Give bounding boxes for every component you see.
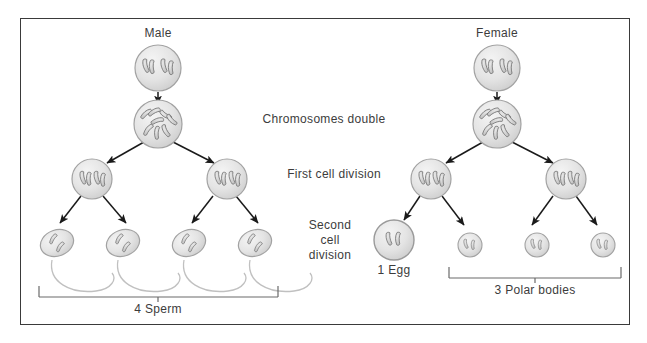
label-male: Male: [144, 27, 171, 41]
label-chromosomes-double: Chromosomes double: [263, 113, 386, 127]
label-second-cell-division-line1: Second: [309, 219, 352, 233]
label-four-sperm: 4 Sperm: [134, 303, 181, 317]
label-second-cell-division-line3: division: [309, 249, 351, 263]
label-three-polar-bodies: 3 Polar bodies: [495, 284, 576, 298]
label-one-egg: 1 Egg: [378, 264, 411, 278]
label-first-cell-division: First cell division: [287, 168, 381, 182]
label-second-cell-division-line2: cell: [320, 234, 339, 248]
label-female: Female: [476, 27, 518, 41]
diagram-canvas: Male Female Chromosomes double First cel…: [0, 0, 647, 343]
